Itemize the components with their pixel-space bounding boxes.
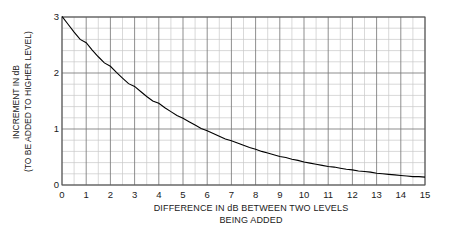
x-tick-label: 15 [420, 190, 431, 200]
x-axis-title-line-1: DIFFERENCE IN dB BETWEEN TWO LEVELS [0, 203, 464, 215]
x-tick-label: 6 [205, 190, 210, 200]
x-tick-label: 2 [108, 190, 113, 200]
x-tick-label: 3 [132, 190, 137, 200]
x-tick-label: 13 [371, 190, 382, 200]
x-tick-label: 5 [180, 190, 185, 200]
x-tick-label: 11 [323, 190, 333, 200]
x-tick-label: 14 [396, 190, 407, 200]
x-tick-label: 8 [253, 190, 258, 200]
x-tick-label: 0 [59, 190, 64, 200]
x-tick-label: 10 [299, 190, 310, 200]
x-axis-tick-labels: 0123456789101112131415 [0, 0, 464, 236]
x-tick-label: 7 [229, 190, 234, 200]
x-tick-label: 9 [277, 190, 282, 200]
x-tick-label: 1 [84, 190, 89, 200]
x-axis-title: DIFFERENCE IN dB BETWEEN TWO LEVELS BEIN… [0, 203, 464, 226]
x-tick-label: 12 [347, 190, 358, 200]
x-axis-title-line-2: BEING ADDED [0, 215, 464, 227]
chart-figure: INCREMENT IN dB (TO BE ADDED TO HIGHER L… [0, 0, 464, 236]
x-tick-label: 4 [156, 190, 161, 200]
